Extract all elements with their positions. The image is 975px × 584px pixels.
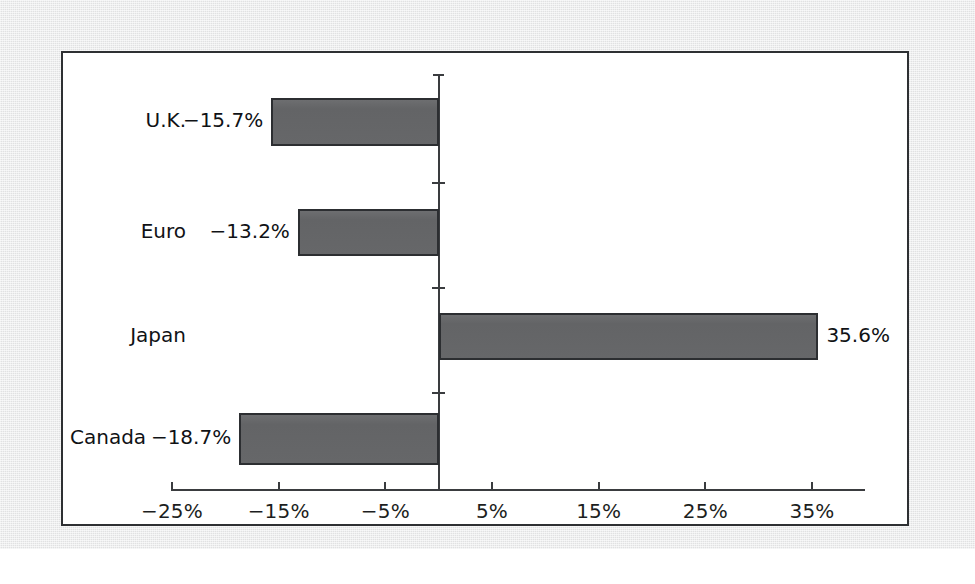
x-axis-tick-4 xyxy=(598,482,600,491)
x-axis-tick-label-5: 25% xyxy=(660,499,750,523)
category-label-2: Japan xyxy=(63,323,186,347)
chart-panel: −25%−15%−5%5%15%25%35%−15.7%U.K.−13.2%Eu… xyxy=(61,51,909,526)
x-axis-tick-label-0: −25% xyxy=(127,499,217,523)
x-axis-tick-label-4: 15% xyxy=(554,499,644,523)
bar-u-k xyxy=(271,98,438,146)
x-axis-tick-0 xyxy=(171,482,173,491)
x-axis-tick-label-6: 35% xyxy=(767,499,857,523)
x-axis-tick-1 xyxy=(278,482,280,491)
scanned-page: −25%−15%−5%5%15%25%35%−15.7%U.K.−13.2%Eu… xyxy=(0,0,975,584)
x-axis-tick-2 xyxy=(384,482,386,491)
bar-euro xyxy=(298,209,439,256)
category-boundary-tick-3 xyxy=(432,392,445,394)
x-axis-tick-label-1: −15% xyxy=(234,499,324,523)
bar-japan xyxy=(439,313,819,360)
x-axis-line xyxy=(172,489,865,491)
x-axis-tick-3 xyxy=(491,482,493,491)
category-label-3: Canada xyxy=(70,425,146,449)
bar-canada xyxy=(239,413,438,465)
category-label-1: Euro xyxy=(63,219,186,243)
zero-axis-cap-tick xyxy=(433,74,444,76)
category-label-0: U.K. xyxy=(63,108,186,132)
value-label-2: 35.6% xyxy=(826,323,890,347)
category-boundary-tick-1 xyxy=(432,182,445,184)
x-axis-tick-label-3: 5% xyxy=(447,499,537,523)
plot-area: −25%−15%−5%5%15%25%35%−15.7%U.K.−13.2%Eu… xyxy=(63,53,907,524)
category-boundary-tick-2 xyxy=(432,287,445,289)
x-axis-tick-5 xyxy=(704,482,706,491)
x-axis-tick-6 xyxy=(811,482,813,491)
x-axis-tick-label-2: −5% xyxy=(340,499,430,523)
